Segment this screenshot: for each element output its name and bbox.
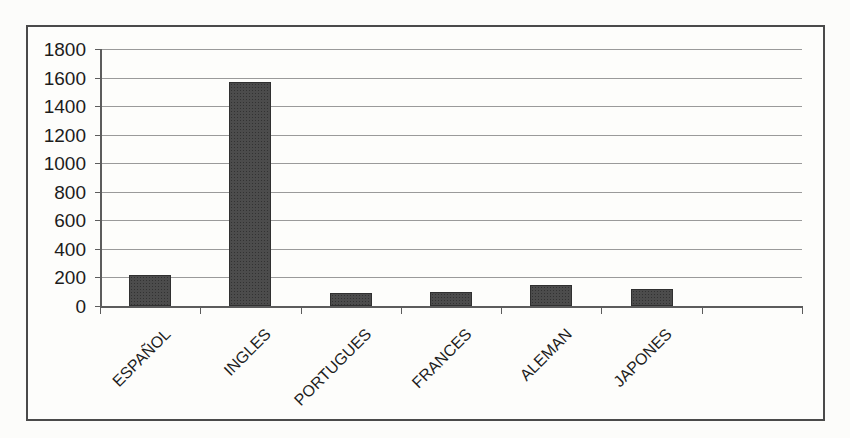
y-axis-label-200: 200 <box>28 268 86 287</box>
y-axis-label-400: 400 <box>28 240 86 259</box>
x-axis <box>100 306 803 308</box>
y-axis-label-600: 600 <box>28 211 86 230</box>
x-axis-tick-6 <box>702 308 703 314</box>
x-axis-tick-1 <box>200 308 201 314</box>
bar-frances <box>430 292 472 306</box>
gridline-1400 <box>100 106 802 107</box>
x-axis-label-frances: FRANCES <box>409 326 474 391</box>
x-axis-label-portugues: PORTUGUES <box>291 326 374 409</box>
y-axis-label-800: 800 <box>28 183 86 202</box>
gridline-600 <box>100 220 802 221</box>
y-axis-label-0: 0 <box>28 297 86 316</box>
bar-aleman <box>530 285 572 306</box>
x-axis-tick-2 <box>301 308 302 314</box>
gridline-1800 <box>100 49 802 50</box>
x-axis-tick-3 <box>401 308 402 314</box>
y-axis-label-1200: 1200 <box>28 126 86 145</box>
gridline-1200 <box>100 135 802 136</box>
gridline-400 <box>100 249 802 250</box>
x-axis-tick-4 <box>501 308 502 314</box>
x-axis-label-aleman: ALEMAN <box>517 326 575 384</box>
plot-area: 180016001400120010008006004002000ESPAÑOL… <box>28 27 823 419</box>
x-axis-label-japones: JAPONES <box>611 326 675 390</box>
bar-espanol <box>129 275 171 306</box>
bar-japones <box>631 289 673 306</box>
x-axis-tick-7 <box>802 308 803 314</box>
bar-portugues <box>330 293 372 306</box>
gridline-1600 <box>100 78 802 79</box>
y-axis-label-1600: 1600 <box>28 69 86 88</box>
x-axis-tick-5 <box>601 308 602 314</box>
gridline-800 <box>100 192 802 193</box>
scanned-document-page: 180016001400120010008006004002000ESPAÑOL… <box>0 0 850 438</box>
y-axis <box>100 49 102 308</box>
y-axis-label-1800: 1800 <box>28 40 86 59</box>
x-axis-label-espanol: ESPAÑOL <box>110 326 174 390</box>
y-axis-label-1400: 1400 <box>28 97 86 116</box>
chart-frame: 180016001400120010008006004002000ESPAÑOL… <box>26 25 825 421</box>
gridline-200 <box>100 277 802 278</box>
x-axis-tick-0 <box>100 308 101 314</box>
bar-ingles <box>229 82 271 306</box>
x-axis-label-ingles: INGLES <box>221 326 274 379</box>
y-axis-label-1000: 1000 <box>28 154 86 173</box>
gridline-1000 <box>100 163 802 164</box>
